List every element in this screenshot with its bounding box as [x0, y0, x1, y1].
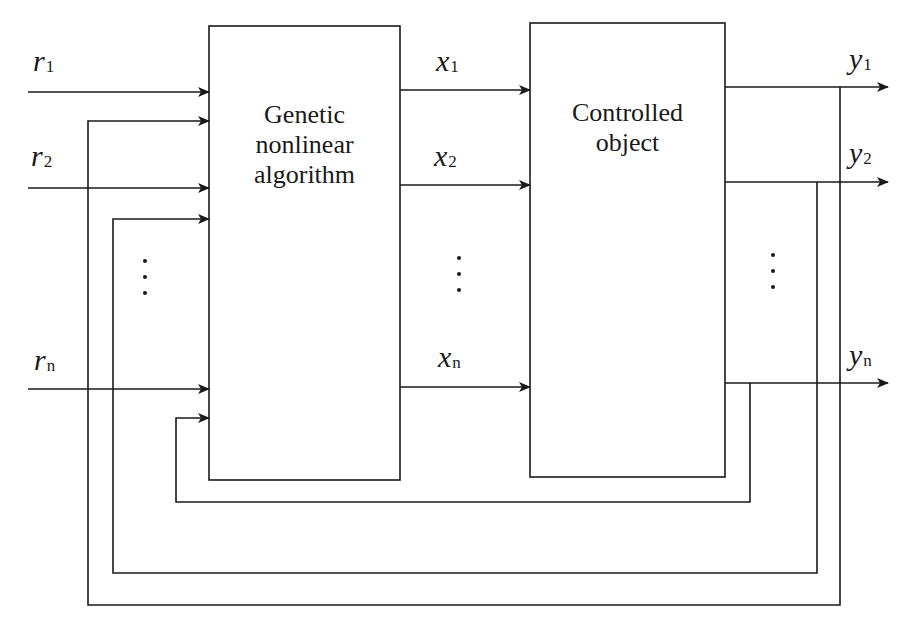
label-xn: xn: [438, 342, 461, 372]
ellipsis-outputs: [770, 253, 776, 301]
feedback-path-y2: [113, 182, 817, 573]
diagram-canvas: [0, 0, 912, 633]
genetic-algorithm-label-line-1: Genetic: [209, 100, 400, 130]
feedback-path-y1: [88, 87, 840, 605]
label-rn-sub: n: [47, 356, 56, 375]
label-x1-sub: 1: [450, 57, 459, 76]
label-y1: y1: [849, 44, 872, 74]
controlled-object-label-line-2: object: [530, 128, 725, 158]
label-rn-var: r: [34, 343, 46, 376]
label-r1-sub: 1: [46, 57, 55, 76]
controlled-object-label: Controlled object: [530, 98, 725, 158]
genetic-algorithm-block: [209, 26, 400, 480]
label-x2-sub: 2: [448, 152, 457, 171]
label-y2: y2: [849, 138, 872, 168]
label-r2: r2: [31, 141, 52, 171]
controlled-object-block: [530, 23, 725, 477]
ellipsis-inputs: [142, 259, 148, 307]
label-rn: rn: [34, 345, 55, 375]
label-x2: x2: [434, 141, 457, 171]
label-yn-sub: n: [863, 351, 872, 370]
label-y1-var: y: [849, 42, 862, 75]
label-x1: x1: [436, 46, 459, 76]
label-r2-sub: 2: [44, 152, 53, 171]
controlled-object-label-line-1: Controlled: [530, 98, 725, 128]
genetic-algorithm-label-line-3: algorithm: [209, 160, 400, 190]
label-y1-sub: 1: [863, 55, 872, 74]
genetic-algorithm-label-line-2: nonlinear: [209, 130, 400, 160]
label-r1: r1: [33, 46, 54, 76]
feedback-path-yn: [176, 383, 750, 502]
label-x2-var: x: [434, 139, 447, 172]
label-r1-var: r: [33, 44, 45, 77]
ellipsis-intermediate: [456, 256, 462, 304]
label-yn-var: y: [849, 338, 862, 371]
label-y2-sub: 2: [863, 149, 872, 168]
genetic-algorithm-label: Genetic nonlinear algorithm: [209, 100, 400, 190]
label-xn-sub: n: [452, 353, 461, 372]
label-yn: yn: [849, 340, 872, 370]
label-r2-var: r: [31, 139, 43, 172]
label-x1-var: x: [436, 44, 449, 77]
label-xn-var: x: [438, 340, 451, 373]
label-y2-var: y: [849, 136, 862, 169]
